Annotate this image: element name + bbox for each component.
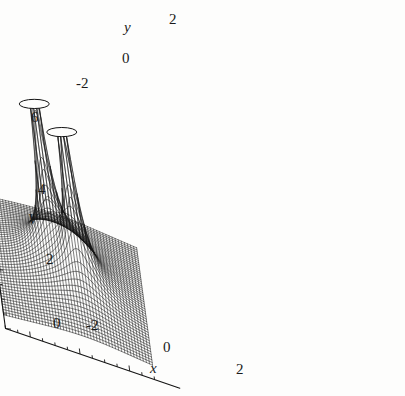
figure-3d-surface-plot: 6 4 2 0 -2 0 2 -2 0 2 V y x bbox=[0, 0, 405, 396]
surface-wireframe-mesh bbox=[0, 100, 153, 365]
x-axis-tick bbox=[79, 349, 80, 355]
x-axis-title: x bbox=[150, 361, 157, 376]
x-axis-tick-minus2: -2 bbox=[86, 318, 99, 333]
v-axis-title: V bbox=[28, 212, 37, 227]
x-axis-line bbox=[6, 329, 180, 389]
y-axis-tick-2: 2 bbox=[169, 12, 177, 27]
surface-plot-canvas bbox=[0, 0, 405, 396]
v-axis-tick-0: 0 bbox=[53, 316, 61, 331]
peak-cap-right bbox=[47, 127, 77, 136]
v-axis-tick-2: 2 bbox=[46, 252, 54, 267]
v-axis-tick-6: 6 bbox=[31, 110, 39, 125]
v-axis-tick-4: 4 bbox=[38, 182, 46, 197]
peak-cap-left bbox=[19, 99, 49, 108]
x-axis-tick bbox=[129, 366, 130, 372]
x-axis-tick-2: 2 bbox=[236, 362, 244, 377]
x-axis-tick-0: 0 bbox=[163, 340, 171, 355]
y-axis-tick-0: 0 bbox=[122, 51, 130, 66]
y-axis-title: y bbox=[124, 20, 131, 35]
peak-cap-ellipses bbox=[19, 99, 77, 136]
y-axis-tick-minus2: -2 bbox=[76, 76, 89, 91]
x-axis-tick bbox=[30, 332, 31, 338]
